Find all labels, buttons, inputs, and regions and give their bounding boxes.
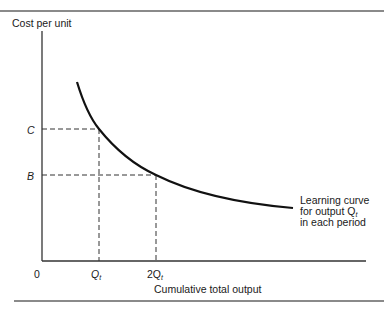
x-axis-label: Cumulative total output xyxy=(154,283,261,295)
annotation-line-3: in each period xyxy=(300,216,366,228)
x-tick-qt-sub: t xyxy=(99,274,101,281)
x-tick-2qt: 2Qt xyxy=(147,268,163,284)
x-tick-qt: Qt xyxy=(91,268,101,284)
y-axis-label: Cost per unit xyxy=(12,17,72,29)
x-tick-qt-text: Q xyxy=(91,268,99,280)
bottom-rule xyxy=(14,300,384,302)
learning-curve xyxy=(77,82,293,208)
learning-curve-chart xyxy=(0,0,384,314)
x-tick-2qt-text: 2Q xyxy=(147,268,161,280)
y-tick-c: C xyxy=(27,124,35,136)
x-tick-origin: 0 xyxy=(34,268,40,280)
x-tick-2qt-sub: t xyxy=(161,274,163,281)
y-tick-b: B xyxy=(27,170,34,182)
